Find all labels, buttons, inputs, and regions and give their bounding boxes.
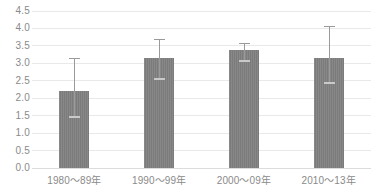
error-bar-stem: [329, 26, 330, 83]
x-tick-label: 2000〜09年: [199, 175, 289, 187]
y-axis: 4.54.03.53.02.52.01.51.00.50.0: [0, 0, 30, 195]
x-tick-label: 2010〜13年: [284, 175, 371, 187]
plot-area: [32, 0, 371, 195]
x-tick-label: 1990〜99年: [114, 175, 204, 187]
y-tick-label: 4.0: [4, 23, 30, 33]
bar-group: [32, 0, 371, 195]
y-tick-label: 1.0: [4, 128, 30, 138]
x-tick-label: 1980〜89年: [29, 175, 119, 187]
error-bar-cap-upper: [324, 26, 335, 27]
y-tick-label: 2.5: [4, 76, 30, 86]
y-tick-label: 1.5: [4, 111, 30, 121]
y-tick-label: 0.0: [4, 163, 30, 173]
error-bar-cap-lower: [324, 82, 335, 84]
bar-chart-with-error-bars: 4.54.03.53.02.52.01.51.00.50.0 1980〜89年1…: [0, 0, 371, 195]
y-tick-label: 0.5: [4, 146, 30, 156]
y-tick-label: 4.5: [4, 6, 30, 16]
y-tick-label: 2.0: [4, 93, 30, 103]
y-tick-label: 3.5: [4, 41, 30, 51]
y-tick-label: 3.0: [4, 58, 30, 68]
